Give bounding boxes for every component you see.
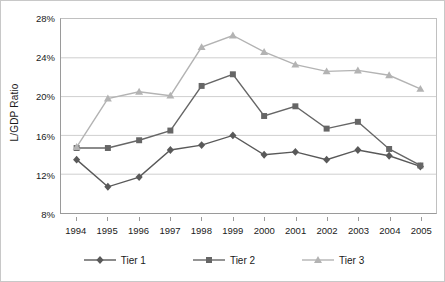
data-point-marker [386, 146, 392, 152]
y-axis-tick-labels: 8%12%16%20%24%28% [23, 1, 59, 223]
data-point-marker [198, 141, 205, 149]
x-axis-tick-mark [107, 217, 108, 221]
legend-marker-icon [83, 254, 117, 266]
y-axis-title-text: L/GDP Ratio [9, 83, 20, 141]
x-axis-tick-label: 1997 [159, 225, 180, 236]
legend-item-tier-2[interactable]: Tier 2 [192, 254, 255, 266]
x-axis-tick-mark [390, 217, 391, 221]
x-axis-tick-mark [421, 217, 422, 221]
data-point-marker [292, 148, 299, 156]
legend-marker-icon [192, 254, 226, 266]
x-axis-tick-label: 1999 [222, 225, 243, 236]
series-tier-2 [74, 71, 424, 168]
x-axis-tick-label: 2004 [379, 225, 400, 236]
x-axis-tick-mark [139, 217, 140, 221]
x-axis-tick-mark [201, 217, 202, 221]
data-point-marker [292, 103, 298, 109]
data-point-marker [229, 131, 236, 139]
x-axis-tick-mark [264, 217, 265, 221]
x-axis-tick-label: 1995 [97, 225, 118, 236]
plot-area [60, 18, 437, 214]
x-axis-tick-label: 2005 [411, 225, 432, 236]
data-point-marker [96, 256, 103, 264]
data-point-marker [261, 151, 268, 159]
x-axis-tick-label: 1998 [191, 225, 212, 236]
series-tier-1 [73, 131, 424, 190]
y-axis-tick-label: 16% [36, 130, 55, 141]
x-axis-tick-label: 2003 [348, 225, 369, 236]
data-point-marker [135, 88, 143, 95]
x-axis-tick-label: 2002 [316, 225, 337, 236]
x-axis-tick-mark [296, 217, 297, 221]
data-point-marker [199, 83, 205, 89]
x-axis-tick-mark [327, 217, 328, 221]
x-axis-tick-label: 2001 [285, 225, 306, 236]
y-axis-tick-label: 28% [36, 13, 55, 24]
series-tier-3 [73, 32, 425, 150]
data-point-marker [386, 152, 393, 160]
x-axis-tick-label: 1996 [128, 225, 149, 236]
data-point-marker [261, 113, 267, 119]
data-point-marker [355, 119, 361, 125]
legend-label: Tier 3 [339, 255, 364, 266]
legend-label: Tier 2 [230, 255, 255, 266]
data-point-marker [105, 145, 111, 151]
legend-item-tier-3[interactable]: Tier 3 [301, 254, 364, 266]
x-axis-tick-mark [358, 217, 359, 221]
data-point-marker [354, 146, 361, 154]
legend-marker-icon [301, 254, 335, 266]
chart-figure: L/GDP Ratio 8%12%16%20%24%28% 1994199519… [0, 0, 445, 282]
y-axis-tick-label: 8% [41, 209, 55, 220]
data-point-marker [167, 128, 173, 134]
data-point-marker [206, 257, 212, 263]
y-axis-title: L/GDP Ratio [3, 1, 25, 223]
data-point-marker [323, 156, 330, 164]
y-axis-tick-label: 24% [36, 52, 55, 63]
legend-item-tier-1[interactable]: Tier 1 [83, 254, 146, 266]
legend-label: Tier 1 [121, 255, 146, 266]
x-axis-tick-label: 1994 [65, 225, 86, 236]
data-point-marker [260, 48, 268, 55]
x-axis-tick-labels: 1994199519961997199819992000200120022003… [60, 217, 437, 243]
data-point-marker [230, 71, 236, 77]
data-point-marker [417, 163, 423, 169]
chart-legend: Tier 1Tier 2Tier 3 [1, 249, 445, 271]
series-line [77, 35, 421, 147]
data-point-marker [229, 32, 237, 39]
y-axis-tick-label: 12% [36, 169, 55, 180]
data-point-marker [136, 137, 142, 143]
x-axis-tick-mark [233, 217, 234, 221]
data-point-marker [324, 126, 330, 132]
x-axis-tick-mark [76, 217, 77, 221]
x-axis-tick-mark [170, 217, 171, 221]
plot-svg [61, 19, 436, 213]
x-axis-tick-label: 2000 [254, 225, 275, 236]
y-axis-tick-label: 20% [36, 91, 55, 102]
